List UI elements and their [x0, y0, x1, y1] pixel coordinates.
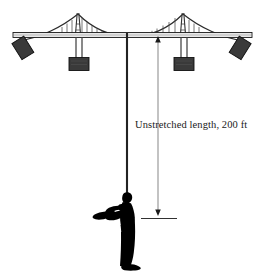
- bungee-bridge-figure: Unstretched length, 200 ft: [0, 0, 265, 276]
- left-counterweight-block: [69, 58, 89, 71]
- right-counterweight-block: [174, 58, 194, 71]
- unstretched-length-label: Unstretched length, 200 ft: [135, 119, 247, 131]
- figure-canvas: [0, 0, 265, 276]
- bridge-deck: [13, 33, 252, 38]
